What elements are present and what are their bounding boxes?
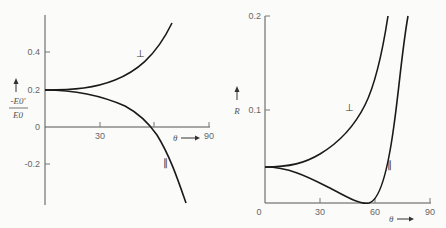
left-ylabel-numerator: -E0' [11, 96, 27, 106]
left-ytick-0.2: 0.2 [27, 85, 40, 95]
left-ylabel-denominator: E0 [12, 110, 23, 120]
left-xtick-90: 90 [204, 131, 214, 141]
left-perp-label: ⊥ [136, 48, 145, 59]
right-perp-label: ⊥ [345, 102, 354, 113]
right-ytick-0: 0 [256, 207, 261, 217]
right-xtick-90: 90 [425, 207, 435, 217]
left-curve-par [45, 90, 186, 203]
right-ylabel: R [233, 106, 240, 116]
left-xlabel: θ [173, 133, 178, 143]
right-chart: 0.2 0.1 0 30 60 90 θ R ⊥ ∥ [233, 11, 435, 224]
right-ytick-0.2: 0.2 [248, 11, 261, 21]
right-xtick-60: 60 [370, 207, 380, 217]
left-ytick-0: 0 [35, 122, 40, 132]
right-curve-perp [265, 16, 388, 167]
left-par-label: ∥ [163, 157, 168, 169]
right-ytick-0.1: 0.1 [248, 105, 261, 115]
left-curve-perp [45, 23, 172, 90]
left-ytick-0.4: 0.4 [27, 47, 40, 57]
right-xtick-30: 30 [315, 207, 325, 217]
right-xlabel: θ [389, 214, 394, 224]
left-chart: 0.4 0.2 0 -0.2 30 90 θ -E0' E0 ⊥ ∥ [9, 15, 214, 205]
left-xtick-30: 30 [95, 131, 105, 141]
right-par-label: ∥ [387, 159, 392, 171]
figure: 0.4 0.2 0 -0.2 30 90 θ -E0' E0 ⊥ ∥ 0.2 0… [0, 0, 446, 228]
left-ytick-neg0.2: -0.2 [24, 159, 40, 169]
right-curve-par [265, 16, 408, 203]
